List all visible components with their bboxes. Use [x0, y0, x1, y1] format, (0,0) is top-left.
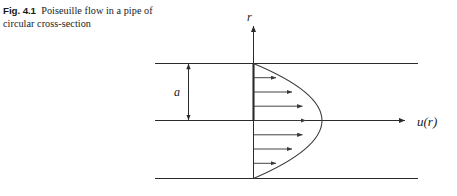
horizontal-axis-label: u(r): [417, 114, 437, 129]
poiseuille-flow-diagram: r u(r) a: [0, 0, 457, 196]
radius-label: a: [174, 85, 180, 99]
vertical-axis-label: r: [247, 10, 252, 24]
figure-page: Fig. 4.1 Poiseuille flow in a pipe of ci…: [0, 0, 457, 196]
